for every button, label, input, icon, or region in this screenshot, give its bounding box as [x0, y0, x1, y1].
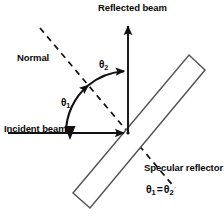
theta1-subscript: 1	[66, 101, 70, 110]
angle-equality-equation: θ1=θ2	[146, 184, 174, 197]
theta2-subscript: 2	[104, 63, 108, 72]
reflected-beam-label: Reflected beam	[98, 3, 167, 13]
theta2-label: θ2	[99, 60, 108, 71]
equation-theta2-subscript: 2	[169, 188, 173, 197]
incident-beam-label: Incident beam	[4, 124, 67, 134]
angle-arc-theta2	[88, 71, 124, 85]
diagram-canvas	[0, 0, 224, 218]
specular-reflector-label: Specular reflector	[144, 163, 223, 173]
equation-equals-sign: =	[156, 183, 164, 195]
normal-label: Normal	[17, 53, 49, 63]
point-of-incidence	[126, 131, 129, 134]
specular-reflector-surface	[73, 55, 205, 208]
theta1-label: θ1	[61, 98, 70, 109]
specular-reflection-figure: Reflected beam Normal Incident beam Spec…	[0, 0, 224, 218]
